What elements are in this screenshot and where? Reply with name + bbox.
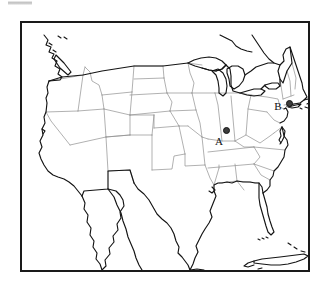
chesapeake-bay xyxy=(279,127,282,143)
baja-east xyxy=(102,189,124,270)
location-marker-a-dot[interactable] xyxy=(223,127,230,134)
new-england-coast xyxy=(287,47,307,106)
baja-west xyxy=(82,196,102,270)
canada-north-fragment xyxy=(220,35,252,52)
mexico-west-mainland xyxy=(108,189,142,270)
coastline-layer xyxy=(39,35,308,270)
us-outline-map xyxy=(22,23,308,270)
florida-keys xyxy=(266,237,268,238)
map-frame: A B xyxy=(20,21,310,272)
st-lawrence xyxy=(261,85,265,89)
map-figure-root: A B xyxy=(0,0,329,292)
mexico-border-west xyxy=(82,170,134,196)
location-marker-a-label: A xyxy=(215,136,223,147)
yucatan xyxy=(190,269,204,270)
gulf-coast xyxy=(190,181,263,270)
lake-michigan xyxy=(212,69,227,96)
location-marker-b-label: B xyxy=(274,101,281,112)
cuba xyxy=(254,254,308,265)
vancouver-island xyxy=(54,55,71,75)
scan-artifact xyxy=(8,1,32,5)
cape-cod xyxy=(304,99,308,104)
canada-border xyxy=(49,63,188,81)
pacific-coast xyxy=(39,81,82,196)
location-marker-b-dot[interactable] xyxy=(286,100,293,107)
lake-ontario xyxy=(265,83,280,89)
rio-grande xyxy=(134,183,190,270)
state-borders-layer xyxy=(46,63,300,190)
